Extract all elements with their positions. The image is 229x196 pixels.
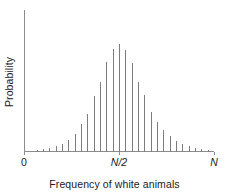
distribution-bar (94, 96, 95, 152)
distribution-bar (189, 146, 190, 152)
probability-distribution-chart: Probability 0N/2N Frequency of white ani… (0, 0, 229, 196)
distribution-bar (201, 149, 202, 152)
distribution-bar (157, 122, 158, 152)
distribution-bar (113, 49, 114, 152)
x-tick-label: N/2 (111, 156, 127, 169)
distribution-bar (43, 149, 44, 152)
distribution-bar (182, 144, 183, 152)
distribution-bar (195, 148, 196, 152)
distribution-bar (163, 130, 164, 152)
x-tick-mark (119, 152, 120, 155)
distribution-bar (56, 146, 57, 152)
distribution-bar (208, 150, 209, 152)
x-axis-label: Frequency of white animals (0, 177, 229, 191)
plot-area (24, 10, 214, 152)
distribution-bar (170, 136, 171, 152)
distribution-bar (106, 62, 107, 152)
distribution-bar (75, 134, 76, 152)
distribution-bar (176, 141, 177, 152)
distribution-bar (87, 114, 88, 152)
distribution-bar (68, 140, 69, 152)
distribution-bar (151, 112, 152, 152)
distribution-bar (100, 82, 101, 152)
y-axis-label: Probability (2, 6, 16, 158)
distribution-bar (119, 44, 120, 152)
distribution-bar (138, 82, 139, 152)
x-tick-label: 0 (21, 156, 27, 169)
distribution-bar (125, 50, 126, 152)
distribution-bar (81, 124, 82, 152)
x-tick-mark (214, 152, 215, 155)
distribution-bar (49, 148, 50, 152)
distribution-bar (62, 144, 63, 152)
distribution-bar (37, 150, 38, 152)
distribution-bar (144, 95, 145, 152)
distribution-bar (132, 63, 133, 152)
x-tick-mark (24, 152, 25, 155)
x-tick-label: N (210, 156, 218, 169)
